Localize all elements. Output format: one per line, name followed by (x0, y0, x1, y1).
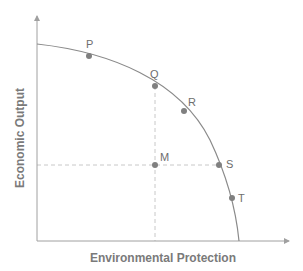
point-label-s: S (226, 158, 233, 170)
point-label-p: P (86, 38, 93, 50)
point-t: T (229, 192, 245, 204)
ppf-chart: P Q R M S T Environmental Protection Eco… (0, 0, 303, 271)
y-axis-title: Economic Output (13, 88, 27, 188)
point-label-r: R (188, 96, 196, 108)
point-label-t: T (238, 192, 245, 204)
point-label-m: M (160, 151, 169, 163)
point-label-q: Q (150, 68, 159, 80)
point-r: R (181, 96, 196, 114)
point-q: Q (150, 68, 159, 89)
ppf-curve (37, 44, 239, 241)
point-p: P (86, 38, 93, 59)
x-axis-title: Environmental Protection (90, 251, 236, 265)
